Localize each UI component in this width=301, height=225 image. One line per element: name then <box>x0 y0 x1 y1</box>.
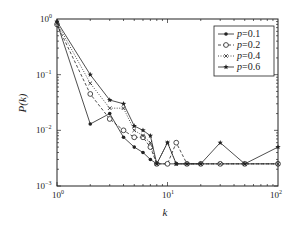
legend: p=0.1 p=0.2 p=0.4 p=0.6 <box>214 26 274 76</box>
legend-label-p01: p=0.1 <box>236 28 260 39</box>
x-axis-label: k <box>163 206 169 218</box>
legend-label-p02: p=0.2 <box>236 39 260 50</box>
ytick-label-3: 10−3 <box>36 180 51 191</box>
legend-label-p04: p=0.4 <box>236 50 260 61</box>
xtick-label-0: 100 <box>52 189 64 200</box>
xtick-label-1: 101 <box>162 189 174 200</box>
ytick-label-1: 10−1 <box>36 69 51 80</box>
legend-label-p06: p=0.6 <box>236 61 260 72</box>
xtick-label-2: 102 <box>270 189 282 200</box>
ytick-label-2: 10−2 <box>36 124 51 135</box>
loglog-chart: 100 10−1 10−2 10−3 100 101 102 k P(k) p=… <box>0 0 301 225</box>
y-axis-label: P(k) <box>16 93 29 113</box>
ytick-label-0: 100 <box>40 13 52 24</box>
